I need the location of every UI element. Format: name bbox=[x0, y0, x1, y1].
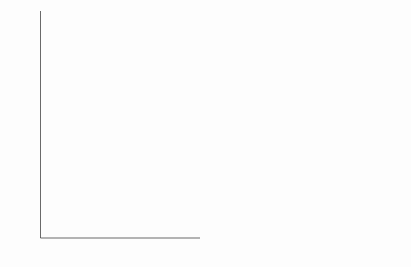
figure-container bbox=[0, 0, 411, 267]
right-plot-svg bbox=[206, 0, 411, 267]
left-plot-svg bbox=[0, 0, 205, 267]
chart-panel-left bbox=[0, 0, 205, 267]
chart-panel-right bbox=[206, 0, 411, 267]
